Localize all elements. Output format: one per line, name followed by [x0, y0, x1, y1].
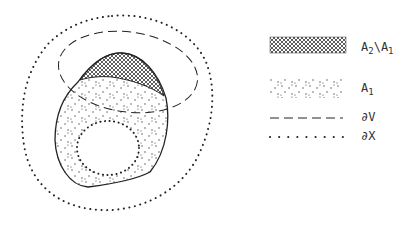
legend-label-A1: A1: [361, 81, 374, 97]
legend-label-dV: ∂V: [361, 110, 375, 124]
legend-label-A2-minus-A1: A2\A1: [361, 40, 394, 56]
label-text: ∂X: [361, 129, 375, 143]
label-text: ∂V: [361, 110, 375, 124]
inner-hole: [77, 121, 139, 175]
legend-label-dX: ∂X: [361, 129, 375, 143]
set-diagram: [0, 0, 410, 228]
label-subscript: 1: [368, 87, 373, 97]
legend-swatch-stipple: [270, 78, 343, 98]
legend-swatch-crosshatch: [270, 37, 346, 53]
label-subscript: 1: [388, 46, 393, 56]
label-text: \A: [374, 40, 388, 54]
